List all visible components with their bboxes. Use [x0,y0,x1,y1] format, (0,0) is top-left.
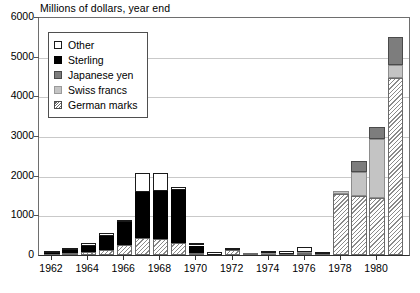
bar-segment-marks [388,78,403,255]
legend-swatch-icon [54,71,62,79]
bar-segment-marks [99,250,114,255]
bar-segment-sterling [153,191,168,239]
bar-segment-sterling [117,222,132,245]
x-axis-tick-label: 1970 [184,262,207,274]
y-axis-tick-mark [34,136,39,137]
legend-item-sterling[interactable]: Sterling [54,53,142,67]
bar-segment-marks [171,243,186,255]
bar-1976 [297,17,312,255]
bar-1973 [243,17,258,255]
bar-segment-other [279,251,294,254]
bar-1977 [315,17,330,255]
bar-segment-other [171,187,186,190]
x-axis-tick-label: 1962 [39,262,62,274]
bar-segment-marks [351,196,366,255]
legend-item-other[interactable]: Other [54,38,142,52]
x-axis-tick-label: 1966 [112,262,135,274]
bar-1970 [189,17,204,255]
x-axis-tick-label: 1980 [364,262,387,274]
y-axis-tick-label: 4000 [0,89,34,101]
bar-segment-sterling [62,250,77,253]
bar-segment-marks [117,245,132,255]
bar-segment-swiss [351,172,366,197]
y-axis-tick-mark [34,215,39,216]
bar-segment-other [261,251,276,254]
bar-segment-yen [351,161,366,172]
x-axis-tick-label: 1964 [75,262,98,274]
legend-swatch-icon [54,86,62,94]
bar-segment-marks [333,194,348,255]
bar-1979 [351,17,366,255]
x-axis-tick-label: 1976 [292,262,315,274]
bar-segment-sterling [81,246,96,252]
legend-item-yen[interactable]: Japanese yen [54,68,142,82]
bar-1969 [171,17,186,255]
bar-segment-other [315,252,330,255]
bar-segment-other [81,243,96,246]
legend: OtherSterlingJapanese yenSwiss francsGer… [48,32,148,118]
bar-segment-sterling [135,192,150,239]
x-axis-tick-mark [268,256,269,260]
bar-segment-other [99,233,114,236]
bar-1968 [153,17,168,255]
bar-segment-other [135,173,150,192]
y-axis-tick-label: 1000 [0,208,34,220]
x-axis-tick-mark [159,256,160,260]
y-axis-tick-label: 0 [0,248,34,260]
y-axis-tick-mark [34,96,39,97]
legend-item-label: German marks [68,99,137,111]
x-axis-tick-mark [232,256,233,260]
bar-segment-marks [297,253,312,256]
chart-axis-title: Millions of dollars, year end [40,2,170,14]
x-axis-tick-label: 1978 [328,262,351,274]
x-axis-tick-mark [87,256,88,260]
bar-segment-other [62,248,77,251]
x-axis-tick-mark [376,256,377,260]
bar-segment-marks [369,198,384,255]
bar-1981 [388,17,403,255]
y-axis-tick-mark [34,176,39,177]
bar-segment-swiss [333,191,348,194]
bar-segment-yen [369,127,384,139]
x-axis-tick-mark [51,256,52,260]
bar-segment-other [189,243,204,246]
legend-swatch-icon [54,56,62,64]
x-axis-tick-mark [340,256,341,260]
x-axis-tick-label: 1972 [220,262,243,274]
legend-item-swiss[interactable]: Swiss francs [54,83,142,97]
bar-segment-marks [243,253,258,256]
legend-item-label: Other [68,39,94,51]
y-axis-tick-mark [34,57,39,58]
bar-segment-other [225,248,240,251]
bar-1980 [369,17,384,255]
x-axis-tick-mark [195,256,196,260]
bar-1972 [225,17,240,255]
bar-segment-sterling [99,236,114,251]
bar-segment-other [297,247,312,252]
x-axis-tick-mark [123,256,124,260]
bar-segment-sterling [171,190,186,243]
y-axis-tick-mark [34,17,39,18]
bar-segment-swiss [388,65,403,79]
bar-1971 [207,17,222,255]
bar-segment-yen [388,37,403,65]
bar-segment-swiss [369,139,384,199]
legend-item-marks[interactable]: German marks [54,98,142,112]
legend-swatch-icon [54,101,62,109]
bar-segment-marks [225,250,240,255]
bar-chart: Millions of dollars, year end 0100020003… [0,0,420,293]
y-axis-tick-label: 3000 [0,129,34,141]
bar-1974 [261,17,276,255]
bar-segment-marks [62,253,77,256]
bar-segment-marks [135,238,150,255]
bar-segment-sterling [189,246,204,254]
legend-item-label: Japanese yen [68,69,133,81]
x-axis-tick-label: 1968 [148,262,171,274]
bar-segment-marks [153,239,168,255]
bar-segment-other [207,252,222,255]
bar-segment-marks [81,252,96,255]
bar-segment-other [117,220,132,223]
legend-item-label: Sterling [68,54,104,66]
bar-1975 [279,17,294,255]
bar-1978 [333,17,348,255]
